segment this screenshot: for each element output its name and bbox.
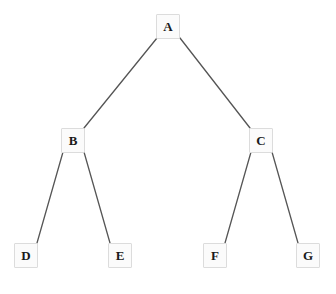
tree-node-label: G [303,249,313,262]
edge-b-d [37,152,63,243]
edge-c-g [272,152,298,243]
tree-edge-layer [0,0,336,294]
tree-node-b[interactable]: B [61,128,85,153]
tree-node-label: D [21,249,30,262]
edge-a-c [180,38,250,128]
tree-node-g[interactable]: G [296,243,320,268]
tree-node-label: F [211,249,219,262]
edge-c-f [225,152,251,243]
tree-node-label: B [69,134,78,147]
tree-node-label: C [256,134,265,147]
tree-node-e[interactable]: E [108,243,132,268]
tree-node-label: E [116,249,125,262]
tree-node-f[interactable]: F [203,243,227,268]
tree-node-d[interactable]: D [14,243,38,268]
tree-node-a[interactable]: A [156,14,180,39]
tree-diagram: A B C D E F G [0,0,336,294]
tree-node-c[interactable]: C [249,128,273,153]
edge-b-e [84,152,110,243]
tree-node-label: A [163,20,172,33]
edge-a-b [84,38,157,128]
